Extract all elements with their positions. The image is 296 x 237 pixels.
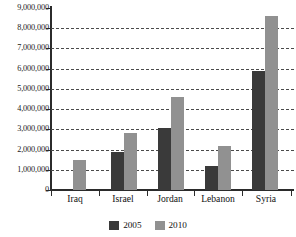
x-axis-label-syria: Syria — [242, 194, 290, 204]
x-axis-label-iraq: Iraq — [51, 194, 99, 204]
bar-syria-2010 — [265, 16, 278, 190]
bar-group-jordan — [152, 8, 193, 190]
y-tick-label: 2,000,000 — [1, 145, 49, 153]
bar-group-iraq — [58, 8, 99, 190]
y-tick-label: 4,000,000 — [1, 105, 49, 113]
bar-syria-2005 — [252, 71, 265, 190]
legend-swatch-icon — [109, 221, 119, 230]
y-tick-label: 5,000,000 — [1, 85, 49, 93]
bar-lebanon-2005 — [205, 166, 218, 190]
x-axis-tick — [291, 191, 292, 196]
bar-lebanon-2010 — [218, 146, 231, 191]
y-tick-label: 6,000,000 — [1, 65, 49, 73]
y-tick-label: 7,000,000 — [1, 44, 49, 52]
bar-group-lebanon — [199, 8, 240, 190]
legend-item-2010: 2010 — [155, 221, 187, 230]
x-axis-label-jordan: Jordan — [146, 194, 194, 204]
y-tick-label: 1,000,000 — [1, 166, 49, 174]
bar-group-israel — [105, 8, 146, 190]
legend-label: 2010 — [169, 221, 187, 230]
y-tick-label: 8,000,000 — [1, 24, 49, 32]
bar-group-syria — [246, 8, 287, 190]
bar-chart: 9,000,000 8,000,000 7,000,000 6,000,000 … — [0, 0, 296, 237]
bar-jordan-2010 — [171, 97, 184, 190]
legend-item-2005: 2005 — [109, 221, 141, 230]
bar-jordan-2005 — [158, 128, 171, 190]
y-tick-label: 0 — [1, 186, 49, 194]
bar-iraq-2010 — [73, 160, 86, 190]
y-tick-label: 9,000,000 — [1, 4, 49, 12]
legend-swatch-icon — [155, 221, 165, 230]
plot-area — [51, 8, 294, 190]
y-axis-labels: 9,000,000 8,000,000 7,000,000 6,000,000 … — [0, 0, 49, 237]
bar-israel-2005 — [111, 152, 124, 190]
chart-legend: 2005 2010 — [0, 221, 296, 230]
legend-label: 2005 — [123, 221, 141, 230]
x-axis-label-lebanon: Lebanon — [194, 194, 242, 204]
y-tick-label: 3,000,000 — [1, 125, 49, 133]
x-axis-label-israel: Israel — [99, 194, 147, 204]
bar-israel-2010 — [124, 133, 137, 190]
